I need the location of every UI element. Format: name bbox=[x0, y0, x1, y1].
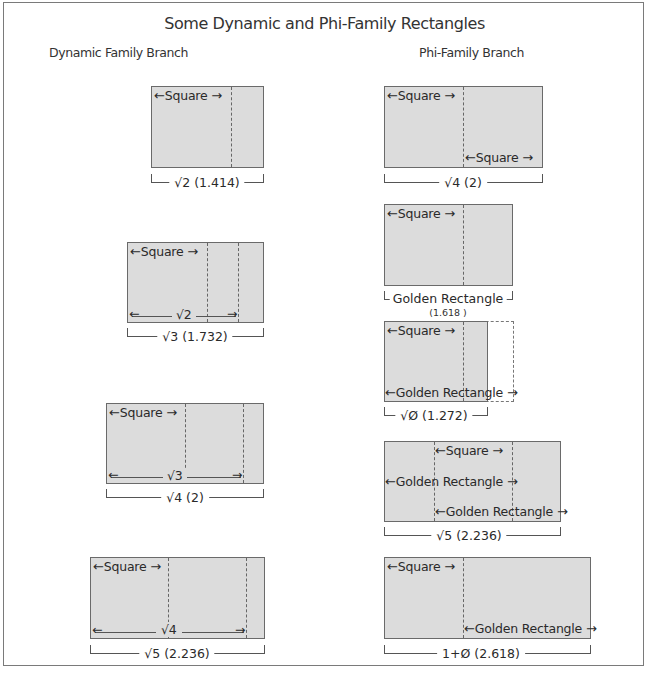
left-arrow-icon: ← bbox=[387, 323, 398, 338]
golden-caption: Golden Rectangle bbox=[390, 291, 507, 306]
square-divider bbox=[463, 205, 464, 285]
inner-span-label: √3 bbox=[163, 468, 187, 483]
figure-title: Some Dynamic and Phi-Family Rectangles bbox=[0, 14, 649, 33]
left-arrow-icon: ← bbox=[154, 88, 165, 103]
right-arrow-icon: → bbox=[507, 385, 518, 400]
right-arrow-icon: → bbox=[187, 244, 198, 259]
right-arrow-icon: → bbox=[150, 559, 161, 574]
left-arrow-icon: ← bbox=[435, 504, 446, 519]
one-plus-phi-rectangle: ←Square → ←Golden Rectangle → bbox=[384, 557, 591, 639]
right-arrow-icon: → bbox=[444, 206, 455, 221]
right-arrow-icon: → bbox=[444, 323, 455, 338]
right-arrow-icon: → bbox=[492, 443, 503, 458]
square-span-label: ←Square → bbox=[93, 559, 161, 574]
left-arrow-icon: ← bbox=[93, 559, 104, 574]
right-arrow-icon: → bbox=[522, 150, 533, 165]
right-arrow-icon: → bbox=[586, 621, 597, 636]
left-arrow-icon: ← bbox=[92, 622, 102, 637]
second-square-span-label: ←Square → bbox=[465, 150, 533, 165]
left-arrow-icon: ← bbox=[387, 88, 398, 103]
left-golden-span-label: ←Golden Rectangle → bbox=[385, 474, 518, 489]
right-arrow-icon: → bbox=[444, 88, 455, 103]
square-span-label: ←Square → bbox=[130, 244, 198, 259]
left-arrow-icon: ← bbox=[108, 467, 118, 482]
left-arrow-icon: ← bbox=[387, 206, 398, 221]
square-span-label: ←Square → bbox=[387, 323, 455, 338]
square-span-label: ←Square → bbox=[387, 559, 455, 574]
phi-root-4-rectangle: ←Square → ←Square → bbox=[384, 86, 543, 168]
root-5-rectangle: ←Square → ← → √4 bbox=[90, 557, 265, 639]
left-arrow-icon: ← bbox=[435, 443, 446, 458]
phi-branch-heading: Phi-Family Branch bbox=[419, 45, 524, 60]
left-arrow-icon: ← bbox=[385, 474, 396, 489]
root-4-caption: √4 (2) bbox=[161, 490, 209, 505]
root-3-divider bbox=[243, 404, 244, 483]
dynamic-branch-heading: Dynamic Family Branch bbox=[49, 45, 188, 60]
phi-root-5-caption: √5 (2.236) bbox=[431, 528, 506, 543]
right-arrow-icon: → bbox=[444, 559, 455, 574]
golden-rectangle: ←Square → bbox=[384, 204, 513, 286]
root-5-caption: √5 (2.236) bbox=[139, 646, 214, 661]
left-arrow-icon: ← bbox=[109, 405, 120, 420]
golden-span-label: ←Golden Rectangle → bbox=[464, 621, 597, 636]
left-arrow-icon: ← bbox=[130, 244, 141, 259]
phi-root-5-rectangle: ←Square → ←Golden Rectangle → ←Golden Re… bbox=[384, 441, 561, 522]
square-span-label: ←Square → bbox=[387, 206, 455, 221]
square-span-label: ←Square → bbox=[435, 443, 503, 458]
square-divider bbox=[463, 87, 464, 167]
golden-rectangle-span-label: ←Golden Rectangle → bbox=[385, 385, 518, 400]
root-3-rectangle: ←Square → ← → √2 bbox=[127, 242, 264, 323]
left-arrow-icon: ← bbox=[387, 559, 398, 574]
root-4-rectangle: ←Square → ← → √3 bbox=[106, 403, 264, 484]
square-divider bbox=[231, 87, 232, 167]
root-2-caption: √2 (1.414) bbox=[169, 175, 244, 190]
square-divider bbox=[207, 243, 208, 322]
left-arrow-icon: ← bbox=[129, 306, 139, 321]
left-arrow-icon: ← bbox=[464, 621, 475, 636]
root-4-divider bbox=[246, 558, 247, 638]
right-arrow-icon: → bbox=[227, 306, 237, 321]
square-span-label: ←Square → bbox=[109, 405, 177, 420]
inner-span-label: √4 bbox=[156, 622, 182, 637]
square-span-label: ←Square → bbox=[154, 88, 222, 103]
root-phi-caption: √Ø (1.272) bbox=[395, 408, 472, 423]
root-3-caption: √3 (1.732) bbox=[157, 329, 232, 344]
golden-ratio-value: (1.618 ) bbox=[429, 307, 467, 318]
root-2-divider bbox=[238, 243, 239, 322]
one-plus-phi-caption: 1+Ø (2.618) bbox=[437, 646, 525, 661]
right-arrow-icon: → bbox=[507, 474, 518, 489]
root-2-rectangle: ←Square → bbox=[151, 86, 264, 168]
right-golden-span-label: ←Golden Rectangle → bbox=[435, 504, 568, 519]
right-arrow-icon: → bbox=[211, 88, 222, 103]
right-arrow-icon: → bbox=[232, 467, 242, 482]
square-span-label: ←Square → bbox=[387, 88, 455, 103]
phi-root-4-caption: √4 (2) bbox=[439, 175, 487, 190]
left-arrow-icon: ← bbox=[465, 150, 476, 165]
inner-span-label: √2 bbox=[172, 307, 196, 322]
right-arrow-icon: → bbox=[166, 405, 177, 420]
right-arrow-icon: → bbox=[557, 504, 568, 519]
left-arrow-icon: ← bbox=[385, 385, 396, 400]
right-arrow-icon: → bbox=[235, 622, 245, 637]
